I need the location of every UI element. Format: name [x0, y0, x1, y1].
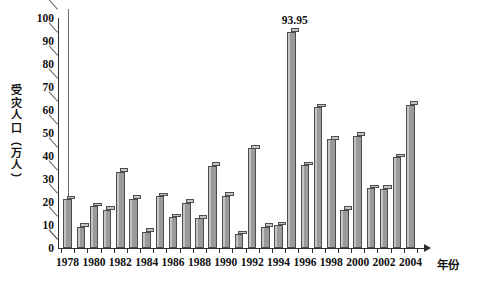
- bar-chart: 受灾人口（万人） 0102030405060708090100 93.95 19…: [0, 0, 477, 290]
- x-axis-tick: [74, 248, 75, 253]
- x-axis-tick: [246, 248, 247, 253]
- bar: [353, 136, 362, 248]
- x-axis-tick-label: 2000: [346, 256, 369, 268]
- x-axis-tick-label: 1978: [56, 256, 79, 268]
- bar: [63, 199, 72, 248]
- y-axis-title-char: 灾: [8, 97, 24, 110]
- x-axis-tick: [377, 248, 378, 253]
- bar: [301, 165, 310, 248]
- x-axis-tick: [140, 248, 141, 253]
- bar: [169, 217, 178, 248]
- bar: [116, 172, 125, 248]
- bar: [340, 210, 349, 248]
- y-axis-title-char: （: [10, 132, 23, 148]
- y-axis-tick-labels: 0102030405060708090100: [26, 0, 54, 290]
- y-axis-title: 受灾人口（万人）: [8, 84, 24, 184]
- x-axis-tick-label: 1980: [82, 256, 105, 268]
- x-axis-tick: [87, 248, 88, 253]
- bar: [261, 227, 270, 248]
- bar: [393, 157, 402, 248]
- x-axis-tick: [391, 248, 392, 253]
- x-axis-tick-label: 1992: [241, 256, 264, 268]
- bar: [222, 196, 231, 248]
- y-axis-tick-label: 30: [28, 173, 54, 185]
- y-axis-title-char: ）: [10, 170, 23, 186]
- y-axis-title-char: 人: [8, 109, 24, 122]
- y-axis-tick-label: 20: [28, 196, 54, 208]
- x-axis-tick-label: 1994: [267, 256, 290, 268]
- x-axis-tick: [166, 248, 167, 253]
- bar-value-label: 93.95: [282, 14, 308, 26]
- x-axis-tick: [298, 248, 299, 253]
- bar: [195, 218, 204, 248]
- x-axis-tick: [127, 248, 128, 253]
- bar: [274, 225, 283, 248]
- x-axis-tick: [417, 248, 418, 253]
- x-axis-tick: [364, 248, 365, 253]
- y-axis-tick-label: 40: [28, 150, 54, 162]
- bar: [367, 188, 376, 248]
- x-axis-tick-label: 1998: [320, 256, 343, 268]
- x-axis-title: 年份: [437, 256, 459, 272]
- y-axis-title-char: 受: [8, 84, 24, 97]
- x-axis-tick: [338, 248, 339, 253]
- bar: [103, 210, 112, 248]
- y-axis-tick-label: 50: [28, 127, 54, 139]
- x-axis-tick: [351, 248, 352, 253]
- y-axis-line: [58, 18, 59, 248]
- x-axis-tick: [180, 248, 181, 253]
- x-axis-tick: [61, 248, 62, 253]
- x-axis-tick: [101, 248, 102, 253]
- bar: [248, 148, 257, 248]
- x-axis-tick: [114, 248, 115, 253]
- x-axis-tick: [219, 248, 220, 253]
- x-axis-arrow-icon: [424, 244, 431, 252]
- x-axis-tick: [259, 248, 260, 253]
- y-axis-tick-label: 90: [28, 35, 54, 47]
- x-axis-tick-label: 1986: [162, 256, 185, 268]
- x-axis-tick-label: 1988: [188, 256, 211, 268]
- bar: [142, 232, 151, 248]
- y-axis-title-char: 万: [8, 147, 24, 160]
- bar: [156, 196, 165, 248]
- x-axis-tick-label: 1996: [293, 256, 316, 268]
- y-axis-tick-label: 100: [28, 12, 54, 24]
- plot-area: 93.95: [58, 18, 430, 248]
- bar: [287, 32, 296, 248]
- x-axis-tick: [325, 248, 326, 253]
- y-axis-tick-label: 0: [28, 242, 54, 254]
- x-axis-tick-label: 2004: [399, 256, 422, 268]
- x-axis-tick-label: 2002: [373, 256, 396, 268]
- x-axis-tick-label: 1990: [214, 256, 237, 268]
- y-axis-tick-label: 10: [28, 219, 54, 231]
- x-axis-tick: [206, 248, 207, 253]
- x-axis-tick: [153, 248, 154, 253]
- x-axis-tick-label: 1982: [109, 256, 132, 268]
- bar: [208, 166, 217, 248]
- y-axis-tick-label: 80: [28, 58, 54, 70]
- y-axis-tick-label: 60: [28, 104, 54, 116]
- bar: [90, 206, 99, 248]
- x-axis-tick: [312, 248, 313, 253]
- x-axis-tick-label: 1984: [135, 256, 158, 268]
- bar: [235, 234, 244, 248]
- x-axis-tick: [193, 248, 194, 253]
- bar: [129, 199, 138, 248]
- bar: [327, 139, 336, 248]
- x-axis-tick: [272, 248, 273, 253]
- x-axis-tick: [404, 248, 405, 253]
- x-axis-tick: [285, 248, 286, 253]
- bar: [406, 105, 415, 248]
- x-axis-tick: [232, 248, 233, 253]
- y-axis-tick-label: 70: [28, 81, 54, 93]
- bar: [380, 189, 389, 248]
- bar: [314, 107, 323, 248]
- bar: [182, 203, 191, 248]
- bar: [77, 227, 86, 248]
